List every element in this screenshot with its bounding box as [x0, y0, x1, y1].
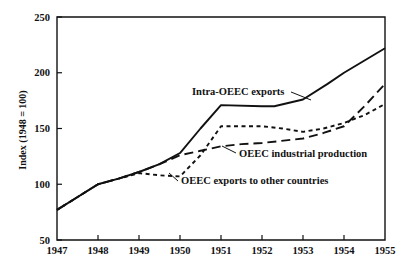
- y-tick-label: 150: [34, 123, 50, 134]
- line-chart: 50100150200250 1947194819491950195119521…: [0, 0, 404, 274]
- x-tick-label: 1950: [170, 245, 191, 256]
- series-label-intra-oeec-exports: Intra-OEEC exports: [192, 86, 284, 97]
- x-tick-label: 1954: [334, 245, 356, 256]
- x-tick-label: 1947: [47, 245, 68, 256]
- x-tick-label: 1955: [375, 245, 396, 256]
- y-axis-title: Index (1948 = 100): [17, 90, 29, 169]
- x-tick-label: 1953: [293, 245, 314, 256]
- x-tick-label: 1951: [211, 245, 232, 256]
- series-label-oeec-industrial-production: OEEC industrial production: [239, 148, 367, 159]
- chart-container: 50100150200250 1947194819491950195119521…: [0, 0, 404, 274]
- y-tick-label: 250: [34, 12, 50, 23]
- chart-background: [0, 0, 404, 274]
- series-label-oeec-exports-to-other-countries: OEEC exports to other countries: [181, 175, 328, 186]
- x-tick-label: 1952: [252, 245, 273, 256]
- x-tick-label: 1949: [129, 245, 150, 256]
- y-tick-label: 200: [34, 67, 50, 78]
- x-tick-label: 1948: [88, 245, 109, 256]
- y-tick-label: 50: [40, 235, 51, 246]
- x-axis-tick-labels: 194719481949195019511952195319541955: [47, 245, 396, 256]
- y-tick-label: 100: [34, 179, 50, 190]
